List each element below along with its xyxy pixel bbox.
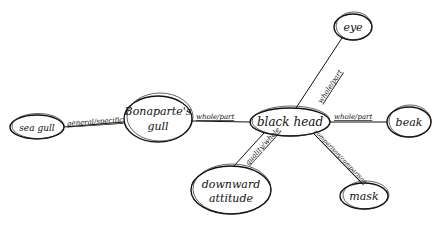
- node-label: black head: [257, 115, 323, 129]
- node-label-line1: Bonaparte's: [124, 105, 192, 118]
- node-black-head: black head: [250, 106, 330, 136]
- node-mask: mask: [340, 181, 389, 209]
- node-beak: beak: [387, 105, 431, 137]
- node-label-line2: attitude: [209, 192, 253, 205]
- edge-label-comparison: comparison/comparison: [313, 128, 369, 186]
- node-downward-attitude: downward attitude: [191, 164, 271, 214]
- semantic-network-diagram: general/specific whole/part whole/part w…: [0, 0, 442, 228]
- node-bonapartes-gull: Bonaparte's gull: [124, 93, 193, 142]
- edge-bonaparte-blackhead: [192, 121, 250, 122]
- node-sea-gull: sea gull: [10, 114, 64, 140]
- node-label: sea gull: [19, 123, 55, 133]
- edge-label-whole-part-beak: whole/part: [334, 113, 372, 121]
- edges: [64, 38, 387, 183]
- node-label-line2: gull: [147, 120, 169, 133]
- node-label: mask: [349, 190, 379, 203]
- node-label: eye: [343, 21, 363, 34]
- node-eye: eye: [334, 12, 372, 40]
- node-label: beak: [396, 116, 423, 129]
- node-label-line1: downward: [202, 178, 260, 191]
- edge-label-whole-part-1: whole/part: [196, 113, 234, 121]
- edge-label-whole-part-eye: whole/part: [317, 68, 345, 105]
- edge-label-general-specific: general/specific: [67, 116, 124, 128]
